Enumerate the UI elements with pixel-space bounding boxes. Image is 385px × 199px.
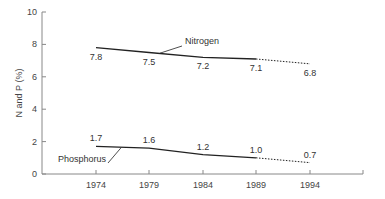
data-label: 0.7 (304, 150, 317, 160)
y-tick-label: 6 (32, 72, 37, 82)
data-label: 6.8 (304, 68, 317, 78)
y-tick-label: 8 (32, 39, 37, 49)
x-tick-label: 1994 (300, 180, 320, 190)
nitrogen-leader-line (160, 46, 182, 53)
data-label: 1.0 (250, 145, 263, 155)
series-projection-nitrogen (256, 59, 310, 64)
series-label-nitrogen: Nitrogen (185, 36, 219, 46)
data-label: 7.8 (90, 52, 103, 62)
y-tick-label: 0 (32, 169, 37, 179)
data-label: 1.7 (90, 133, 103, 143)
x-tick-label: 1989 (246, 180, 266, 190)
x-tick-label: 1974 (86, 180, 106, 190)
data-labels: 7.87.57.27.16.81.71.61.21.00.7 (90, 52, 317, 160)
y-tick-label: 10 (27, 7, 37, 17)
y-tick-label: 4 (32, 104, 37, 114)
series-label-phosphorus: Phosphorus (58, 154, 107, 164)
data-label: 7.2 (197, 61, 210, 71)
chart-svg: 024681019741979198419891994 7.87.57.27.1… (0, 0, 385, 199)
series-projection-phosphorus (256, 158, 310, 163)
phosphorus-leader-line (108, 148, 121, 163)
y-axis-title: N and P (%) (14, 69, 24, 118)
x-tick-label: 1979 (139, 180, 159, 190)
x-tick-label: 1984 (193, 180, 213, 190)
data-label: 1.2 (197, 142, 210, 152)
data-label: 1.6 (143, 135, 156, 145)
data-label: 7.1 (250, 63, 263, 73)
y-tick-label: 2 (32, 137, 37, 147)
chart: 024681019741979198419891994 7.87.57.27.1… (0, 0, 385, 199)
series-line-phosphorus (96, 146, 256, 157)
series-line-nitrogen (96, 48, 256, 59)
data-label: 7.5 (143, 57, 156, 67)
